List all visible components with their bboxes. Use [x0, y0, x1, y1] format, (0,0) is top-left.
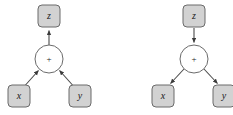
computation-graph-figure: z + x y [0, 0, 233, 115]
graph-canvas: z + x y [0, 0, 233, 115]
node-operation-plus[interactable]: + [35, 45, 63, 73]
node-operation-plus-label: + [46, 54, 51, 64]
node-output-z[interactable]: z [38, 5, 60, 27]
node-input-x-label: x [160, 90, 166, 101]
node-input-x[interactable]: x [8, 85, 30, 107]
edge-op-to-input-right [204, 69, 218, 84]
node-operation-plus-label: + [191, 54, 196, 64]
backward-propagation-graph: z + x y [152, 5, 233, 107]
node-input-y-label: y [221, 90, 227, 101]
node-input-y-label: y [77, 90, 83, 101]
node-input-y[interactable]: y [69, 85, 91, 107]
node-input-x-label: x [16, 90, 22, 101]
edge-input-right-to-op [60, 71, 73, 86]
node-output-z-label: z [191, 10, 196, 21]
node-input-y[interactable]: y [213, 85, 233, 107]
forward-propagation-graph: z + x y [8, 5, 91, 107]
node-output-z[interactable]: z [183, 5, 205, 27]
edge-input-left-to-op [26, 71, 39, 86]
node-input-x[interactable]: x [152, 85, 174, 107]
edge-op-to-input-left [171, 69, 185, 84]
node-operation-plus[interactable]: + [180, 45, 208, 73]
node-output-z-label: z [46, 10, 51, 21]
